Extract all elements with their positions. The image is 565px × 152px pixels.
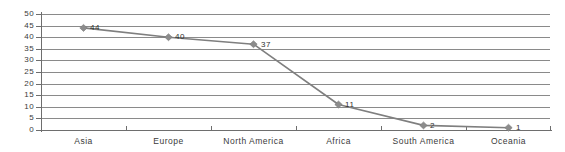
y-tick-label: 45 (0, 22, 34, 30)
data-point-label: 1 (516, 124, 521, 132)
y-tick-label: 50 (0, 10, 34, 18)
data-point-label: 37 (261, 41, 271, 49)
x-axis-line (36, 130, 552, 131)
y-axis-labels: 50 45 40 35 30 25 20 15 10 5 0 (0, 0, 34, 152)
y-tick-label: 40 (0, 33, 34, 41)
y-axis-line (41, 12, 42, 132)
gridline (41, 84, 550, 85)
gridline (41, 37, 550, 38)
y-tick-label: 15 (0, 91, 34, 99)
x-axis-label-south-america: South America (393, 136, 455, 146)
y-tick-label: 35 (0, 45, 34, 53)
x-tick-mark (466, 126, 467, 131)
y-tick-label: 25 (0, 68, 34, 76)
gridline (41, 107, 550, 108)
y-tick-label: 30 (0, 56, 34, 64)
x-axis-label-africa: Africa (326, 136, 351, 146)
y-tick-label: 20 (0, 80, 34, 88)
gridline (41, 60, 550, 61)
x-tick-mark (41, 126, 42, 131)
x-tick-mark (126, 126, 127, 131)
data-point-label: 11 (345, 101, 355, 109)
x-axis-label-north-america: North America (223, 136, 283, 146)
gridline (41, 118, 550, 119)
x-tick-mark (550, 126, 551, 131)
x-axis-label-oceania: Oceania (491, 136, 526, 146)
y-tick-label: 0 (0, 126, 34, 134)
plot-area (41, 14, 550, 130)
x-tick-mark (381, 126, 382, 131)
x-tick-mark (211, 126, 212, 131)
data-point-label: 44 (90, 24, 100, 32)
y-tick-label: 10 (0, 103, 34, 111)
line-chart: 50 45 40 35 30 25 20 15 10 5 0 (0, 0, 565, 152)
gridline (41, 95, 550, 96)
data-point-label: 40 (175, 33, 185, 41)
gridline (41, 26, 550, 27)
y-tick-label: 5 (0, 114, 34, 122)
x-tick-mark (296, 126, 297, 131)
gridline (41, 72, 550, 73)
x-axis-label-asia: Asia (74, 136, 93, 146)
data-point-label: 2 (430, 122, 435, 130)
gridline (41, 14, 550, 15)
x-axis-label-europe: Europe (153, 136, 183, 146)
gridline (41, 49, 550, 50)
